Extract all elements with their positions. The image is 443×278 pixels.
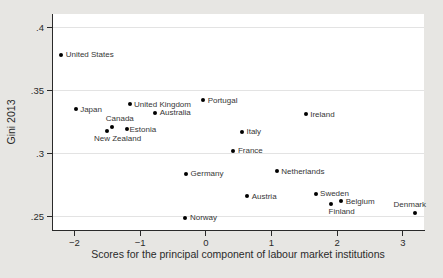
point-label: France xyxy=(238,146,263,155)
scatter-point xyxy=(74,107,78,111)
x-tick-label: 3 xyxy=(400,237,405,248)
y-gridline xyxy=(53,216,424,217)
y-axis-title: Gini 2013 xyxy=(5,100,17,145)
point-label: Germany xyxy=(191,169,224,178)
scatter-point xyxy=(128,102,132,106)
point-label: Austria xyxy=(252,192,277,201)
scatter-point xyxy=(110,125,114,129)
scatter-point xyxy=(413,211,417,215)
y-tick-mark xyxy=(47,153,52,154)
y-tick-label: .4 xyxy=(0,22,44,33)
x-tick-mark xyxy=(337,231,338,236)
y-tick-mark xyxy=(47,27,52,28)
point-label: Japan xyxy=(80,105,102,114)
scatter-point xyxy=(314,192,318,196)
x-tick-label: 0 xyxy=(203,237,208,248)
point-label: Belgium xyxy=(346,197,375,206)
x-tick-mark xyxy=(205,231,206,236)
x-axis-line xyxy=(52,230,425,231)
y-tick-label: .35 xyxy=(0,85,44,96)
scatter-point xyxy=(275,169,279,173)
scatter-point xyxy=(240,130,244,134)
x-tick-label: −2 xyxy=(69,237,80,248)
point-label: United States xyxy=(66,50,114,59)
y-gridline xyxy=(53,90,424,91)
y-tick-mark xyxy=(47,90,52,91)
point-label: Denmark xyxy=(394,200,426,209)
x-axis-title: Scores for the principal component of la… xyxy=(91,248,385,260)
x-tick-label: 2 xyxy=(335,237,340,248)
point-label: Estonia xyxy=(129,125,156,134)
y-tick-label: .3 xyxy=(0,148,44,159)
point-label: Sweden xyxy=(320,189,349,198)
point-label: Australia xyxy=(160,108,191,117)
x-tick-label: −1 xyxy=(135,237,146,248)
x-tick-label: 1 xyxy=(269,237,274,248)
point-label: Canada xyxy=(106,114,134,123)
y-tick-mark xyxy=(47,216,52,217)
scatter-point xyxy=(329,202,333,206)
x-tick-mark xyxy=(402,231,403,236)
scatter-chart-figure: .25.3.35.4−2−10123United StatesPortugalU… xyxy=(0,0,443,278)
point-label: Norway xyxy=(190,213,217,222)
y-gridline xyxy=(53,27,424,28)
point-label: Netherlands xyxy=(281,167,324,176)
point-label: Italy xyxy=(246,127,261,136)
point-label: Portugal xyxy=(208,96,238,105)
scatter-point xyxy=(59,53,63,57)
x-tick-mark xyxy=(74,231,75,236)
x-tick-mark xyxy=(140,231,141,236)
point-label: New Zealand xyxy=(94,134,141,143)
y-axis-line xyxy=(52,14,53,231)
y-tick-label: .25 xyxy=(0,211,44,222)
point-label: Finland xyxy=(329,207,355,216)
scatter-point xyxy=(304,112,308,116)
point-label: United Kingdom xyxy=(134,100,191,109)
scatter-point xyxy=(105,129,109,133)
point-label: Ireland xyxy=(310,110,334,119)
x-tick-mark xyxy=(271,231,272,236)
scatter-point xyxy=(184,172,188,176)
